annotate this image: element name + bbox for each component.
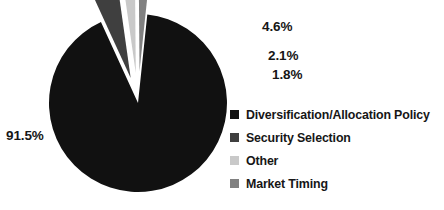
pie-slice-label-security-selection: 4.6% xyxy=(262,19,292,34)
legend-item-label: Diversification/Allocation Policy xyxy=(246,108,430,122)
legend-item-diversification-allocation-policy[interactable]: Diversification/Allocation Policy xyxy=(230,103,444,126)
legend-item-label: Market Timing xyxy=(246,177,328,191)
legend-swatch-icon xyxy=(230,133,239,142)
legend-item-label: Security Selection xyxy=(246,131,351,145)
legend-swatch-icon xyxy=(230,156,239,165)
pie-slice-label-market-timing: 1.8% xyxy=(272,67,302,82)
pie-slice-diversification-allocation-policy[interactable] xyxy=(49,14,227,192)
pie-chart-figure: 91.5% 4.6% 2.1% 1.8% Diversification/All… xyxy=(0,0,444,210)
legend-item-label: Other xyxy=(246,154,278,168)
pie-slices xyxy=(49,0,227,192)
legend-item-market-timing[interactable]: Market Timing xyxy=(230,172,444,195)
legend-item-other[interactable]: Other xyxy=(230,149,444,172)
chart-legend: Diversification/Allocation Policy Securi… xyxy=(230,103,444,195)
pie-slice-label-diversification-allocation-policy: 91.5% xyxy=(6,128,44,143)
legend-item-security-selection[interactable]: Security Selection xyxy=(230,126,444,149)
legend-swatch-icon xyxy=(230,110,239,119)
legend-swatch-icon xyxy=(230,179,239,188)
pie-slice-label-other: 2.1% xyxy=(268,48,298,63)
